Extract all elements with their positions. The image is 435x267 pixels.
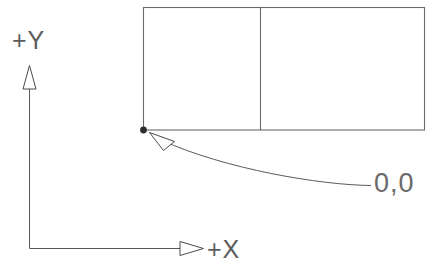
origin-leader-line bbox=[161, 140, 371, 186]
y-axis-label: +Y bbox=[12, 26, 45, 54]
origin-point bbox=[140, 127, 147, 134]
x-axis-arrowhead bbox=[180, 242, 204, 256]
coordinate-system-diagram: +Y +X 0,0 bbox=[0, 0, 435, 267]
diagram-canvas: +Y +X 0,0 bbox=[0, 0, 435, 267]
x-axis-label: +X bbox=[207, 235, 240, 263]
part-rectangle bbox=[144, 8, 425, 131]
origin-coordinate-label: 0,0 bbox=[374, 168, 415, 198]
y-axis-arrowhead bbox=[23, 66, 36, 90]
origin-leader-arrowhead bbox=[150, 133, 175, 151]
